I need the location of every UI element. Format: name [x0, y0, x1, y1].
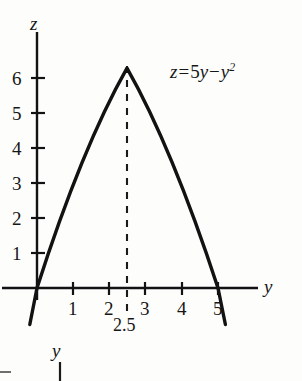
y-tick-label-3: 3: [12, 174, 22, 193]
x-tick-label-4: 4: [177, 299, 187, 318]
y-tick-label-6: 6: [12, 69, 22, 88]
equation-coefficient: 5: [190, 61, 200, 82]
equation-equals: =: [177, 61, 190, 82]
y-tick-label-4: 4: [12, 139, 22, 158]
equation-exponent: 2: [229, 61, 235, 74]
x-tick-label-5: 5: [213, 299, 223, 318]
second-figure-axis-label: y: [52, 341, 60, 360]
x-tick-label-3: 3: [140, 299, 150, 318]
plot-canvas: [0, 0, 302, 381]
curve-equation-label: z=5y−y2: [170, 62, 235, 81]
equation-var1: y: [200, 61, 208, 82]
equation-minus: −: [208, 61, 221, 82]
vertical-axis-label: z: [30, 14, 37, 33]
y-tick-label-1: 1: [12, 244, 22, 263]
parabola-figure: z y 1 2 3 4 5 6 1 2 3 4 5 2.5 z=5y−y2 y: [0, 0, 302, 381]
horizontal-axis-label: y: [264, 277, 272, 296]
vertex-x-value-label: 2.5: [113, 316, 136, 334]
equation-var2: y: [221, 61, 229, 82]
y-tick-label-2: 2: [12, 209, 22, 228]
x-tick-label-1: 1: [68, 299, 78, 318]
y-tick-label-5: 5: [12, 104, 22, 123]
